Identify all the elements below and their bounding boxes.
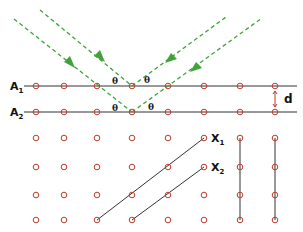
spacing-arrow xyxy=(273,91,277,107)
angle-label: θ xyxy=(112,76,118,86)
arrow-icon xyxy=(190,62,202,72)
atom xyxy=(61,135,67,141)
ray-arrowheads xyxy=(64,50,202,72)
x-ray-beams xyxy=(14,10,262,112)
angle-label: θ xyxy=(148,102,154,112)
atom xyxy=(33,217,39,223)
atom xyxy=(33,192,39,198)
atom xyxy=(61,164,67,170)
plane-a1-label: A1 xyxy=(10,80,24,95)
atom xyxy=(94,192,100,198)
atom xyxy=(33,164,39,170)
atom xyxy=(129,135,135,141)
diagram-canvas: d θ θ θ θ A1 A2 X1 X2 xyxy=(0,0,303,232)
plane-x2-line xyxy=(132,167,204,220)
arrow-icon xyxy=(165,53,177,63)
plane-x2-label: X2 xyxy=(211,161,224,176)
atom xyxy=(201,217,207,223)
atom xyxy=(129,164,135,170)
atom xyxy=(33,135,39,141)
lattice-atoms xyxy=(33,83,278,223)
arrow-icon xyxy=(94,50,105,62)
bragg-diagram: d θ θ θ θ A1 A2 X1 X2 xyxy=(0,0,303,232)
angle-label: θ xyxy=(112,103,118,113)
plane-x1-label: X1 xyxy=(211,132,224,147)
arrow-icon xyxy=(64,56,75,68)
atom xyxy=(94,164,100,170)
incident-ray-2 xyxy=(40,10,132,86)
spacing-label: d xyxy=(284,92,293,106)
atom xyxy=(61,217,67,223)
plane-a2-label: A2 xyxy=(10,106,24,121)
atom xyxy=(61,192,67,198)
atom xyxy=(165,217,171,223)
angle-label: θ xyxy=(144,75,150,85)
atom xyxy=(201,192,207,198)
atom xyxy=(94,135,100,141)
atom xyxy=(165,135,171,141)
